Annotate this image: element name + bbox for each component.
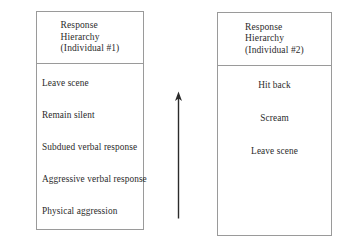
list-item: Aggressive verbal response [42, 174, 143, 185]
upward-arrow-icon [171, 90, 187, 220]
list-item: Physical aggression [42, 206, 143, 217]
list-item: Remain silent [42, 110, 143, 121]
left-panel-header: Response Hierarchy (Individual #1) [37, 12, 143, 64]
response-hierarchy-figure: Response Hierarchy (Individual #1) Leave… [0, 0, 344, 251]
left-panel-header-text: Response Hierarchy (Individual #1) [61, 20, 120, 55]
left-panel-item-list: Leave scene Remain silent Subdued verbal… [37, 64, 143, 230]
right-panel-header: Response Hierarchy (Individual #2) [218, 13, 331, 66]
right-panel-item-list: Hit back Scream Leave scene [218, 66, 331, 236]
list-item: Hit back [218, 80, 331, 91]
right-panel-header-text: Response Hierarchy (Individual #2) [245, 22, 304, 57]
response-hierarchy-panel-individual-1: Response Hierarchy (Individual #1) Leave… [36, 11, 144, 230]
list-item: Scream [218, 113, 331, 124]
response-hierarchy-panel-individual-2: Response Hierarchy (Individual #2) Hit b… [217, 12, 332, 236]
list-item: Leave scene [42, 78, 143, 89]
list-item: Leave scene [218, 146, 331, 157]
list-item: Subdued verbal response [42, 142, 143, 153]
